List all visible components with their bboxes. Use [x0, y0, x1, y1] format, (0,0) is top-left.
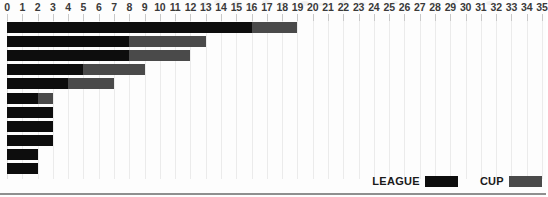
x-tick-mark: [206, 14, 207, 21]
gridline: [359, 21, 360, 179]
gridline: [313, 21, 314, 179]
gridline: [297, 21, 298, 179]
x-tick-mark: [114, 14, 115, 21]
gridline: [420, 21, 421, 179]
x-tick-label: 31: [475, 1, 486, 13]
paper-speckle: [430, 2, 437, 6]
x-tick-mark: [53, 14, 54, 21]
x-tick-label: 5: [81, 1, 87, 13]
bar-segment-league[interactable]: [7, 149, 38, 160]
x-tick-mark: [175, 14, 176, 21]
gridline: [496, 21, 497, 179]
bar-segment-cup[interactable]: [38, 93, 53, 104]
x-tick-mark: [236, 14, 237, 21]
x-tick-mark: [389, 14, 390, 21]
x-tick-mark: [450, 14, 451, 21]
legend-entry-cup[interactable]: CUP: [480, 175, 542, 187]
x-tick-mark: [343, 14, 344, 21]
x-tick-mark: [313, 14, 314, 21]
gridline: [343, 21, 344, 179]
paper-speckle: [452, 0, 458, 3]
paper-speckle: [278, 2, 285, 6]
x-tick-label: 10: [154, 1, 165, 13]
paper-speckle: [262, 0, 270, 5]
chart-legend: LEAGUECUP: [372, 174, 542, 188]
bar-segment-league[interactable]: [7, 22, 252, 33]
paper-speckle: [214, 0, 221, 4]
x-tick-mark: [527, 14, 528, 21]
x-tick-label: 2: [35, 1, 41, 13]
gridline: [389, 21, 390, 179]
x-tick-mark: [297, 14, 298, 21]
x-tick-label: 12: [185, 1, 196, 13]
x-tick-mark: [542, 14, 543, 21]
x-tick-mark: [481, 14, 482, 21]
paper-speckle: [318, 3, 324, 6]
x-tick-mark: [359, 14, 360, 21]
bar-segment-cup[interactable]: [83, 64, 144, 75]
gridline: [252, 21, 253, 179]
x-tick-label: 11: [170, 1, 181, 13]
x-tick-mark: [221, 14, 222, 21]
x-tick-label: 26: [399, 1, 410, 13]
bar-segment-cup[interactable]: [129, 50, 190, 61]
gridline: [267, 21, 268, 179]
legend-swatch: [509, 176, 542, 187]
x-tick-mark: [190, 14, 191, 21]
paper-speckle: [486, 1, 494, 5]
gridline: [511, 21, 512, 179]
x-tick-mark: [38, 14, 39, 21]
x-tick-mark: [22, 14, 23, 21]
gridline: [450, 21, 451, 179]
bar-segment-league[interactable]: [7, 93, 38, 104]
x-tick-mark: [267, 14, 268, 21]
x-tick-mark: [68, 14, 69, 21]
x-tick-mark: [7, 14, 8, 21]
x-tick-label: 6: [96, 1, 102, 13]
paper-speckle: [200, 2, 209, 7]
x-tick-label: 24: [368, 1, 379, 13]
bar-segment-cup[interactable]: [252, 22, 298, 33]
bar-segment-league[interactable]: [7, 163, 38, 174]
bar-segment-cup[interactable]: [129, 36, 205, 47]
legend-entry-league[interactable]: LEAGUE: [372, 175, 458, 187]
gridline: [328, 21, 329, 179]
x-tick-mark: [420, 14, 421, 21]
x-tick-mark: [466, 14, 467, 21]
gridline: [466, 21, 467, 179]
gridline: [206, 21, 207, 179]
bar-segment-league[interactable]: [7, 135, 53, 146]
x-tick-label: 1: [19, 1, 25, 13]
x-tick-mark: [496, 14, 497, 21]
bar-segment-cup[interactable]: [68, 78, 114, 89]
bar-segment-league[interactable]: [7, 121, 53, 132]
x-tick-label: 34: [521, 1, 532, 13]
paper-speckle: [232, 1, 242, 7]
legend-label: LEAGUE: [372, 175, 420, 187]
paper-speckle: [340, 0, 347, 4]
bar-segment-league[interactable]: [7, 50, 129, 61]
legend-swatch: [425, 176, 458, 187]
paper-speckle: [300, 1, 309, 6]
x-tick-mark: [374, 14, 375, 21]
x-tick-mark: [145, 14, 146, 21]
gridline: [404, 21, 405, 179]
x-tick-label: 8: [126, 1, 132, 13]
x-tick-mark: [160, 14, 161, 21]
bar-segment-league[interactable]: [7, 78, 68, 89]
bar-segment-league[interactable]: [7, 64, 83, 75]
gridline: [374, 21, 375, 179]
paper-speckle: [392, 1, 398, 4]
paper-speckle: [246, 3, 252, 7]
bar-segment-league[interactable]: [7, 36, 129, 47]
bar-segment-league[interactable]: [7, 107, 53, 118]
legend-label: CUP: [480, 175, 504, 187]
x-tick-mark: [328, 14, 329, 21]
x-tick-label: 7: [111, 1, 117, 13]
x-tick-label: 0: [4, 1, 10, 13]
gridline: [236, 21, 237, 179]
x-tick-mark: [282, 14, 283, 21]
x-tick-label: 9: [142, 1, 148, 13]
gridline: [542, 21, 543, 179]
